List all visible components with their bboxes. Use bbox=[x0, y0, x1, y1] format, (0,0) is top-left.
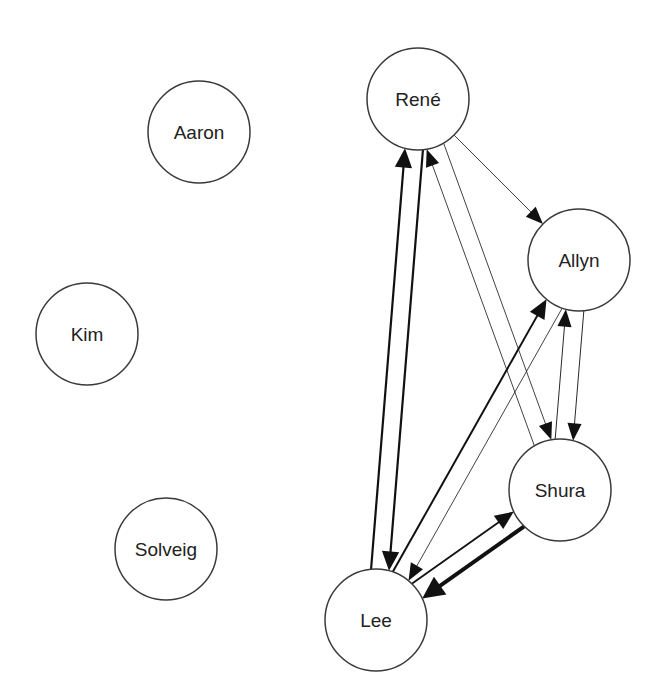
node-kim[interactable]: Kim bbox=[36, 283, 138, 385]
edge-shura-to-lee bbox=[422, 526, 524, 598]
node-label: Shura bbox=[535, 480, 586, 501]
edge-allyn-to-shura bbox=[567, 311, 583, 441]
node-aaron[interactable]: Aaron bbox=[148, 81, 250, 183]
edge-shura-to-allyn bbox=[555, 309, 571, 439]
arrowhead-icon bbox=[557, 309, 571, 327]
edge-line bbox=[574, 311, 584, 426]
edge-line bbox=[390, 150, 423, 555]
edge-rene-to-shura bbox=[444, 143, 552, 440]
arrowhead-icon bbox=[395, 148, 412, 168]
node-solveig[interactable]: Solveig bbox=[115, 498, 217, 600]
arrowhead-icon bbox=[422, 577, 446, 599]
node-rene[interactable]: René bbox=[367, 48, 469, 150]
node-label: Solveig bbox=[135, 539, 197, 560]
arrowhead-icon bbox=[382, 551, 399, 571]
node-label: Allyn bbox=[558, 250, 599, 271]
arrowhead-icon bbox=[530, 299, 547, 320]
nodes-layer: RenéAaronAllynKimShuraSolveigLee bbox=[36, 48, 630, 671]
edge-rene-to-allyn bbox=[454, 135, 543, 224]
arrowhead-icon bbox=[539, 421, 552, 440]
node-label: Kim bbox=[71, 324, 104, 345]
network-graph: RenéAaronAllynKimShuraSolveigLee bbox=[0, 0, 666, 697]
node-allyn[interactable]: Allyn bbox=[528, 209, 630, 311]
node-lee[interactable]: Lee bbox=[325, 569, 427, 671]
edge-line bbox=[432, 163, 535, 446]
edge-line bbox=[555, 324, 565, 439]
edge-line bbox=[371, 165, 404, 570]
node-label: René bbox=[395, 89, 440, 110]
node-shura[interactable]: Shura bbox=[509, 439, 611, 541]
edge-lee-to-allyn bbox=[393, 299, 547, 572]
edge-line bbox=[454, 135, 533, 214]
node-label: Aaron bbox=[174, 122, 225, 143]
arrowhead-icon bbox=[494, 512, 514, 529]
node-label: Lee bbox=[360, 610, 392, 631]
edge-shura-to-rene bbox=[426, 149, 534, 446]
edge-line bbox=[444, 143, 547, 426]
arrowhead-icon bbox=[567, 423, 581, 441]
arrowhead-icon bbox=[426, 149, 439, 168]
